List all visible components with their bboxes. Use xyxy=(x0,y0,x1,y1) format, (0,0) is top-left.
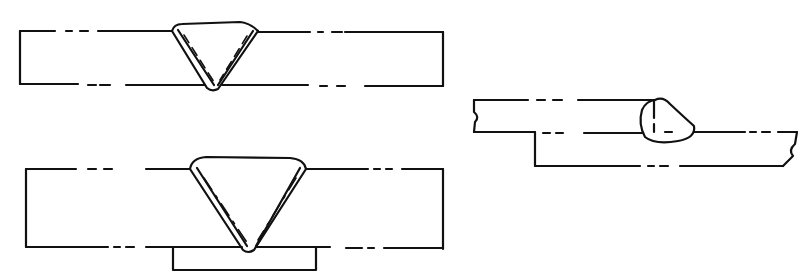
single-v-butt-weld: Single-V butt weld (open root) xyxy=(20,22,443,90)
lap-fillet-weld: Lap joint fillet weld xyxy=(474,99,797,166)
single-v-butt-weld-backing: Single-V butt weld with backing strip xyxy=(26,157,443,270)
weld-diagram: Weld joint sketches Single-V butt weld (… xyxy=(0,0,806,279)
